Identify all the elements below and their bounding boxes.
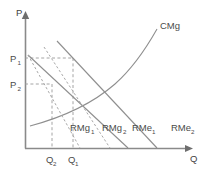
curve-label-cmg: CMg (160, 20, 180, 31)
price-tick-p2: P 2 (10, 79, 22, 92)
curve-label-rmg1: RMg 1 (70, 122, 95, 135)
curve-label-rme2: RMe 2 (171, 122, 195, 135)
chart-canvas: P Q P 1 P 2 Q 2 Q 1 CMg RMg 1 RMg (0, 0, 206, 175)
x-axis-label: Q (190, 153, 197, 164)
curve-label-rme1-base: RMe (132, 122, 152, 133)
price-tick-p1-subscript: 1 (18, 59, 22, 66)
curve-label-rmg2: RMg 2 (102, 122, 127, 135)
curve-label-rmg2-subscript: 2 (123, 128, 127, 135)
curve-label-cmg-base: CMg (160, 20, 180, 31)
curve-rmg1 (28, 55, 80, 148)
quantity-tick-q2: Q 2 (46, 154, 57, 167)
curve-label-rme2-subscript: 2 (191, 128, 195, 135)
quantity-tick-q1-subscript: 1 (75, 160, 79, 167)
quantity-tick-q1: Q 1 (68, 154, 79, 167)
price-tick-p2-subscript: 2 (18, 85, 22, 92)
curve-cmg (30, 29, 157, 126)
quantity-tick-q2-subscript: 2 (53, 160, 57, 167)
curve-label-rme2-base: RMe (171, 122, 191, 133)
price-tick-p1-base: P (10, 53, 16, 64)
y-axis-label: P (16, 7, 22, 18)
curve-label-rmg1-subscript: 1 (91, 128, 95, 135)
economics-diagram: P Q P 1 P 2 Q 2 Q 1 CMg RMg 1 RMg (0, 0, 206, 175)
curve-label-rme1-subscript: 1 (152, 128, 156, 135)
price-tick-p1: P 1 (10, 53, 22, 66)
price-tick-p2-base: P (10, 79, 16, 90)
curve-label-rmg1-base: RMg (70, 122, 90, 133)
guide-lines-group (25, 58, 73, 148)
curve-label-rmg2-base: RMg (102, 122, 122, 133)
y-axis-arrowhead (22, 11, 29, 19)
x-axis-arrowhead (185, 145, 193, 152)
curve-label-rme1: RMe 1 (132, 122, 156, 135)
